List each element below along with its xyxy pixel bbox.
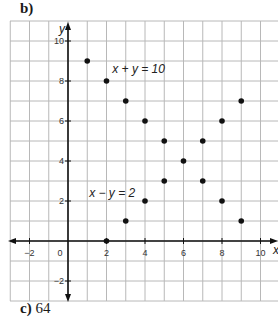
data-point — [181, 158, 187, 164]
data-point — [123, 98, 129, 104]
y-tick-label: 8 — [59, 76, 64, 86]
data-point — [84, 58, 90, 64]
y-tick-label: 4 — [59, 156, 64, 166]
answer-c: c) 64 — [20, 300, 50, 317]
scatter-chart: xy−20246810−2246810 x + y = 10x − y = 2 — [0, 0, 278, 321]
x-tick-label: 4 — [142, 248, 147, 258]
data-point — [238, 218, 244, 224]
y-axis-label: y — [58, 22, 66, 36]
answer-c-value: 64 — [35, 300, 50, 316]
data-point — [142, 198, 148, 204]
y-tick-label: 6 — [59, 116, 64, 126]
x-tick-label: 8 — [219, 248, 224, 258]
y-tick-label: 10 — [54, 36, 64, 46]
data-point — [219, 198, 225, 204]
equation-label: x + y = 10 — [111, 62, 165, 76]
data-point — [238, 98, 244, 104]
data-point — [200, 178, 206, 184]
y-tick-label: 2 — [59, 196, 64, 206]
data-point — [219, 118, 225, 124]
x-tick-label: −2 — [24, 248, 34, 258]
equation-labels: x + y = 10x − y = 2 — [88, 62, 165, 200]
data-point — [200, 138, 206, 144]
x-tick-label: 10 — [255, 248, 265, 258]
data-point — [161, 178, 167, 184]
x-tick-label: 0 — [57, 248, 62, 258]
y-tick-label: −2 — [54, 276, 64, 286]
data-point — [104, 78, 110, 84]
x-axis-left-arrow-icon — [8, 238, 16, 244]
data-point — [142, 118, 148, 124]
data-point — [123, 218, 129, 224]
y-axis-up-arrow-icon — [65, 22, 71, 30]
data-point — [161, 138, 167, 144]
equation-label: x − y = 2 — [88, 186, 135, 200]
x-tick-label: 2 — [104, 248, 109, 258]
x-tick-label: 6 — [181, 248, 186, 258]
answer-c-letter: c) — [20, 300, 32, 316]
x-axis-label: x — [272, 243, 278, 257]
data-point — [104, 238, 110, 244]
